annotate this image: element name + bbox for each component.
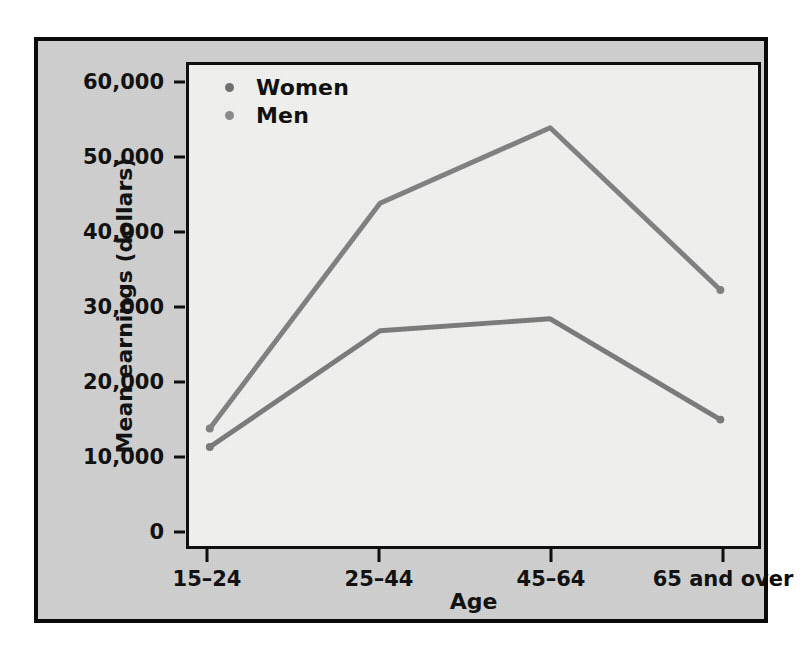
plot-panel: WomenMen xyxy=(186,62,761,549)
y-tick-label: 50,000 xyxy=(38,145,164,169)
x-tick-label: 25–44 xyxy=(345,567,414,591)
y-tick-mark xyxy=(174,231,185,234)
y-tick-mark xyxy=(174,456,185,459)
series-endpoint-dot xyxy=(206,425,214,433)
y-tick-label: 40,000 xyxy=(38,220,164,244)
legend-label: Men xyxy=(256,103,309,128)
y-tick-label: 30,000 xyxy=(38,295,164,319)
x-tick-label: 65 and over xyxy=(653,567,794,591)
legend-item-women: Women xyxy=(225,73,349,101)
y-tick-mark xyxy=(174,156,185,159)
x-tick-mark xyxy=(550,549,553,562)
y-tick-label: 60,000 xyxy=(38,70,164,94)
series-line-women xyxy=(210,319,721,447)
x-tick-mark xyxy=(378,549,381,562)
legend-dot-icon xyxy=(225,111,234,120)
x-tick-label: 45–64 xyxy=(517,567,586,591)
x-tick-label: 15–24 xyxy=(173,567,242,591)
chart-legend: WomenMen xyxy=(225,73,349,129)
x-tick-mark xyxy=(206,549,209,562)
legend-dot-icon xyxy=(225,83,234,92)
x-tick-mark xyxy=(722,549,725,562)
y-tick-mark xyxy=(174,306,185,309)
series-endpoint-dot xyxy=(716,286,724,294)
y-tick-label: 20,000 xyxy=(38,370,164,394)
series-endpoint-dot xyxy=(206,443,214,451)
legend-item-men: Men xyxy=(225,101,349,129)
y-tick-label: 0 xyxy=(38,520,164,544)
x-axis-title: Age xyxy=(186,589,761,614)
plot-series-svg xyxy=(189,65,758,546)
y-tick-mark xyxy=(174,81,185,84)
y-tick-label: 10,000 xyxy=(38,445,164,469)
legend-label: Women xyxy=(256,75,349,100)
y-tick-mark xyxy=(174,381,185,384)
series-line-men xyxy=(210,128,721,429)
series-endpoint-dot xyxy=(716,416,724,424)
y-tick-mark xyxy=(174,531,185,534)
figure-frame: Mean earnings (dollars) 010,00020,00030,… xyxy=(34,37,768,623)
